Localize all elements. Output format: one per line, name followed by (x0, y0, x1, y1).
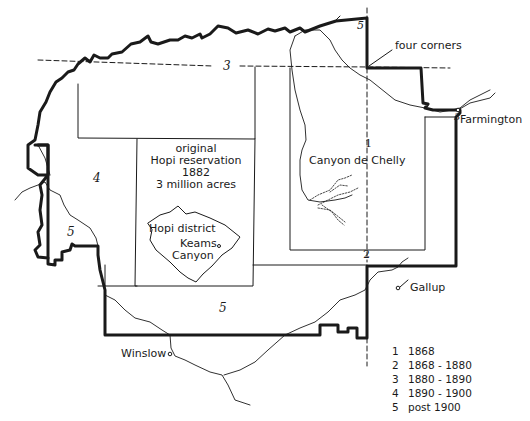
label-hopi-district: Hopi district (149, 223, 216, 234)
winslow-marker (168, 352, 172, 356)
legend-item: 21868 - 1880 (392, 358, 472, 372)
legend-item: 5post 1900 (392, 400, 472, 414)
river-west (15, 182, 98, 246)
region-label-5-north: 5 (357, 20, 364, 31)
boundary-region-3-top (78, 67, 255, 139)
region-label-1: 1 (365, 138, 372, 149)
river-farmington-branch (458, 93, 495, 110)
legend-item: 31880 - 1890 (392, 372, 472, 386)
region-label-3-top: 3 (223, 60, 231, 72)
label-winslow: Winslow (121, 348, 166, 359)
label-gallup: Gallup (410, 282, 445, 293)
region-label-5-west: 5 (67, 226, 75, 238)
label-canyon-de-chelly: Canyon de Chelly (309, 155, 405, 166)
gallup-marker (396, 286, 400, 290)
region-label-4: 4 (93, 172, 101, 184)
legend-item: 11868 (392, 344, 472, 358)
four-corners-leader (369, 50, 392, 66)
legend: 11868 21868 - 1880 31880 - 1890 41890 - … (392, 344, 472, 414)
region-label-3-east: 3 (454, 112, 460, 122)
hopi-line-4: 3 million acres (138, 179, 254, 191)
keams-canyon-marker (218, 245, 221, 248)
legend-item: 41890 - 1900 (392, 386, 472, 400)
river-little-colorado (105, 258, 408, 405)
boundary-region-2 (98, 265, 367, 286)
region-label-2: 2 (363, 249, 370, 260)
label-farmington: Farmington (460, 114, 522, 125)
hopi-reservation-title: original Hopi reservation 1882 3 million… (138, 143, 254, 191)
region-label-5-south: 5 (219, 302, 227, 314)
label-canyon: Canyon (172, 250, 214, 261)
gallup-leader (400, 280, 408, 287)
label-keams: Keams (180, 238, 217, 249)
label-four-corners: four corners (395, 40, 462, 51)
